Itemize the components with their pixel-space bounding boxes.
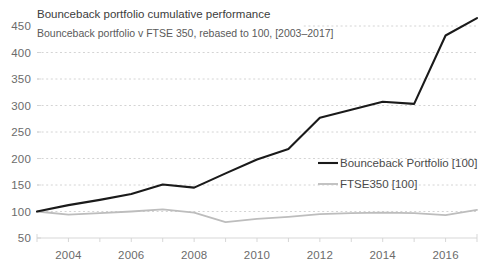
grid-lines — [37, 26, 477, 238]
y-tick-label: 250 — [11, 126, 31, 138]
y-tick-label: 450 — [11, 20, 31, 32]
y-axis-tick-labels: 50100150200250300350400450 — [11, 20, 31, 244]
x-tick-label: 2004 — [55, 249, 82, 261]
legend-label: FTSE350 [100] — [340, 178, 417, 190]
line-chart: 50100150200250300350400450 2004200620082… — [0, 0, 485, 274]
x-tick-label: 2016 — [432, 249, 458, 261]
chart-title-group: Bounceback portfolio cumulative performa… — [33, 6, 334, 41]
x-tick-label: 2006 — [118, 249, 144, 261]
x-tick-label: 2010 — [244, 249, 270, 261]
chart-legend: Bounceback Portfolio [100]FTSE350 [100] — [318, 157, 477, 190]
data-series-layer — [37, 18, 477, 222]
y-tick-label: 350 — [11, 73, 31, 85]
y-tick-label: 400 — [11, 47, 31, 59]
x-tick-label: 2008 — [181, 249, 207, 261]
y-tick-label: 150 — [11, 179, 31, 191]
chart-title: Bounceback portfolio cumulative performa… — [37, 8, 270, 20]
x-tick-label: 2012 — [307, 249, 333, 261]
x-axis — [37, 234, 477, 242]
y-tick-label: 100 — [11, 206, 31, 218]
chart-subtitle: Bounceback portfolio v FTSE 350, rebased… — [37, 27, 334, 39]
x-axis-tick-labels: 2004200620082010201220142016 — [55, 249, 459, 261]
chart-container: 50100150200250300350400450 2004200620082… — [0, 0, 485, 274]
y-tick-label: 50 — [18, 232, 31, 244]
legend-label: Bounceback Portfolio [100] — [340, 157, 477, 169]
y-tick-label: 300 — [11, 100, 31, 112]
y-tick-label: 200 — [11, 153, 31, 165]
x-tick-label: 2014 — [370, 249, 397, 261]
